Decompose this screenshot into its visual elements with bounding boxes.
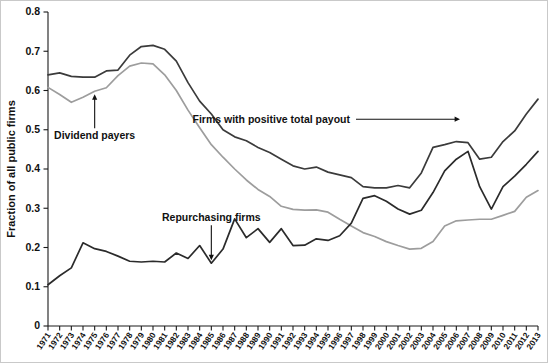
annotation-label: Firms with positive total payout bbox=[192, 113, 350, 125]
annotation-positive-total-payout: Firms with positive total payout bbox=[192, 113, 460, 125]
y-axis-title: Fraction of all public firms bbox=[5, 100, 17, 238]
chart-figure: 00.10.20.30.40.50.60.70.8Fraction of all… bbox=[0, 0, 548, 363]
y-axis-tick-label: 0.4 bbox=[25, 162, 40, 174]
y-axis-tick-label: 0.6 bbox=[25, 84, 40, 96]
annotation-arrowhead bbox=[455, 117, 460, 122]
series-line-dividend-payers bbox=[48, 63, 538, 249]
y-axis-tick-label: 0.7 bbox=[25, 45, 40, 57]
y-axis-tick-label: 0.3 bbox=[25, 202, 40, 214]
series-line-repurchasing-firms bbox=[48, 151, 538, 284]
y-axis-tick-label: 0 bbox=[34, 319, 40, 331]
annotation-label: Dividend payers bbox=[54, 129, 135, 141]
y-axis-tick-label: 0.8 bbox=[25, 5, 40, 17]
y-axis-tick-label: 0.1 bbox=[25, 280, 40, 292]
annotation-label: Repurchasing firms bbox=[162, 211, 261, 223]
y-axis-tick-label: 0.2 bbox=[25, 241, 40, 253]
annotation-arrowhead bbox=[92, 94, 97, 99]
line-chart: 00.10.20.30.40.50.60.70.8Fraction of all… bbox=[1, 1, 548, 363]
annotation-dividend-payers: Dividend payers bbox=[54, 94, 135, 141]
y-axis-tick-label: 0.5 bbox=[25, 123, 40, 135]
